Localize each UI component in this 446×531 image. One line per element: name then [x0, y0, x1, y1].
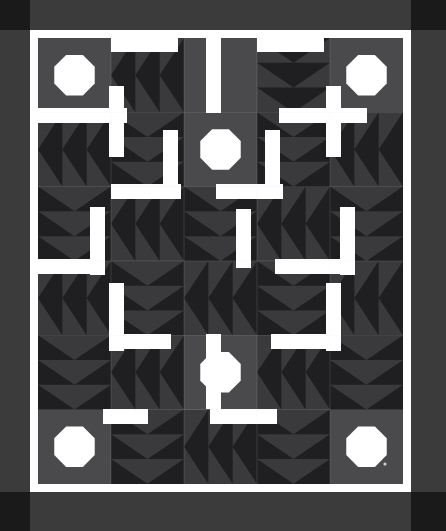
sashing-strip: [265, 130, 280, 198]
sashing-strip: [271, 334, 335, 349]
sashing-strip: [206, 37, 221, 113]
corner-top-left: [0, 0, 30, 30]
scan-artifact-dot: [383, 462, 386, 465]
sashing-strip: [206, 334, 221, 408]
sashing-strip: [109, 283, 124, 351]
sashing-strip: [103, 409, 148, 424]
sashing-strip: [109, 86, 124, 157]
corner-bottom-left: [0, 492, 30, 531]
sashing-strip: [210, 409, 277, 424]
sashing-strip: [111, 37, 178, 52]
corner-top-right: [411, 0, 446, 30]
border-left: [0, 0, 30, 531]
octagon-appliqué: [346, 55, 386, 95]
sashing-strip: [340, 207, 355, 275]
octagon-appliqué: [346, 426, 386, 466]
border-bottom: [0, 492, 446, 531]
border-right: [411, 0, 446, 531]
quilt-canvas: [0, 0, 446, 531]
quilt-image: [0, 0, 446, 531]
sashing-strip: [236, 209, 251, 268]
sashing-strip: [275, 259, 349, 274]
octagon-appliqué: [200, 129, 240, 169]
sashing-strip: [279, 108, 367, 123]
sashing-strip: [257, 37, 324, 52]
sashing-strip: [163, 130, 178, 198]
corner-bottom-right: [411, 492, 446, 531]
sashing-strip: [38, 259, 96, 274]
sashing-strip: [326, 86, 341, 157]
border-top: [0, 0, 446, 30]
octagon-appliqué: [54, 426, 94, 466]
sashing-strip: [326, 283, 341, 351]
octagon-appliqué: [54, 55, 94, 95]
sashing-strip: [90, 207, 105, 275]
